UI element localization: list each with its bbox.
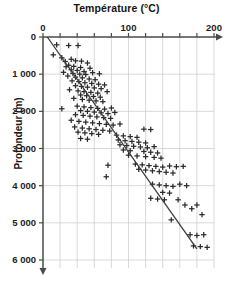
chart-figure: Température (°C) Profondeur (m) 0100200 … — [0, 0, 233, 283]
trend-line — [47, 37, 197, 249]
x-tick-label: 200 — [197, 22, 231, 33]
data-markers — [51, 42, 210, 250]
y-tick-label: 2 000 — [0, 105, 36, 116]
y-tick-label: 4 000 — [0, 180, 36, 191]
y-tick-label: 5 000 — [0, 217, 36, 228]
plot-area — [0, 0, 233, 283]
y-tick-label: 0 — [0, 31, 36, 42]
y-tick-label: 1 000 — [0, 68, 36, 79]
y-tick-label: 3 000 — [0, 143, 36, 154]
x-tick-label: 100 — [112, 22, 146, 33]
y-tick-label: 6 000 — [0, 254, 36, 265]
axes — [40, 34, 224, 276]
